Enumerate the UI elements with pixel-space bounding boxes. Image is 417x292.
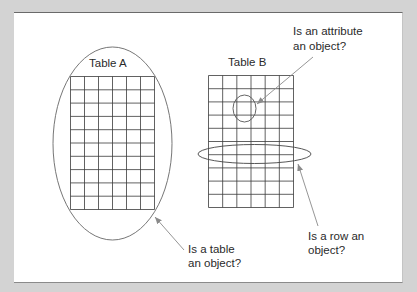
table-b-grid (209, 76, 294, 208)
table-arrow (155, 217, 184, 250)
row-question-line1: Is a row an (308, 229, 364, 243)
table-question-line2: an object? (188, 256, 241, 270)
row-arrow (298, 164, 318, 226)
attribute-question-line2: an object? (293, 39, 346, 53)
attribute-question-line1: Is an attribute (293, 24, 363, 38)
table-a-title: Table A (89, 56, 127, 70)
table-question-line1: Is a table (188, 242, 235, 256)
row-ellipse (198, 145, 311, 164)
row-question-line2: object? (308, 243, 345, 257)
table-b-title: Table B (228, 55, 266, 69)
table-a-grid (71, 77, 155, 210)
